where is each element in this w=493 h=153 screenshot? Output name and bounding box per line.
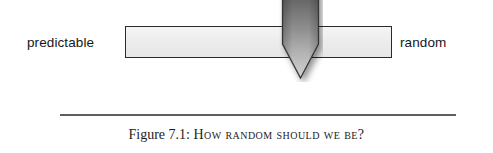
pointer-body [283, 0, 319, 78]
scale-label-random: random [400, 34, 446, 51]
scale-bar-track[interactable] [125, 26, 392, 58]
caption-figure-number: Figure 7.1: [128, 127, 193, 142]
figure-caption: Figure 7.1: How random should we be? [0, 126, 493, 144]
randomness-scale-diagram: predictable random [0, 0, 493, 100]
caption-divider-rule [60, 114, 456, 116]
slider-pointer[interactable] [279, 0, 323, 82]
scale-label-predictable: predictable [27, 34, 94, 51]
caption-title-text: How random should we be? [193, 127, 364, 142]
figure-container: predictable random [0, 0, 493, 153]
